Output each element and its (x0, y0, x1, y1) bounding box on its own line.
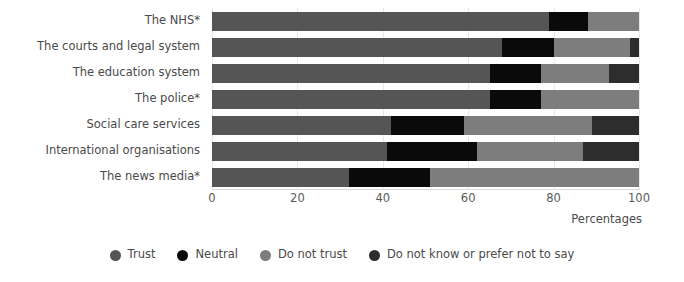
bar-segment (588, 12, 639, 31)
legend-item[interactable]: Do not trust (260, 249, 347, 261)
bar-segment (554, 38, 631, 57)
bar-segment (502, 38, 553, 57)
category-label: The courts and legal system (0, 41, 200, 53)
bar-segment (212, 168, 349, 187)
bar-segment (541, 90, 639, 109)
category-axis-labels: The NHS*The courts and legal systemThe e… (0, 8, 206, 190)
category-label: International organisations (0, 145, 200, 157)
category-label: Social care services (0, 119, 200, 131)
legend-swatch-circle-icon (110, 250, 121, 261)
bar-segment (549, 12, 587, 31)
plot-area (212, 8, 639, 190)
category-label: The education system (0, 67, 200, 79)
legend-item[interactable]: Trust (110, 249, 156, 261)
x-tick-label: 80 (546, 193, 561, 205)
bar-segment (490, 90, 541, 109)
x-tick-label: 60 (461, 193, 476, 205)
bar-segment (212, 142, 387, 161)
stacked-bar-chart: The NHS*The courts and legal systemThe e… (0, 0, 684, 282)
bar-segment (430, 168, 639, 187)
x-tick-label: 40 (375, 193, 390, 205)
legend-label: Do not trust (278, 249, 347, 261)
bar-segment (212, 12, 549, 31)
category-label: The NHS* (0, 15, 200, 27)
bar-row (212, 90, 639, 109)
bar-row (212, 142, 639, 161)
gridline-x-100 (639, 8, 640, 190)
category-label: The police* (0, 93, 200, 105)
bar-segment (391, 116, 464, 135)
bar-segment (477, 142, 584, 161)
legend-item[interactable]: Do not know or prefer not to say (369, 249, 574, 261)
bar-row (212, 38, 639, 57)
legend-label: Neutral (195, 249, 237, 261)
bar-row (212, 168, 639, 187)
x-axis-title: Percentages (470, 212, 642, 226)
bar-row (212, 12, 639, 31)
bar-row (212, 64, 639, 83)
legend-item[interactable]: Neutral (177, 249, 237, 261)
bar-segment (212, 38, 502, 57)
bar-segment (592, 116, 639, 135)
bar-segment (541, 64, 609, 83)
legend-label: Trust (128, 249, 156, 261)
bar-segment (349, 168, 430, 187)
bar-segment (212, 64, 490, 83)
x-axis-ticks: 020406080100 (212, 193, 639, 209)
legend-swatch-circle-icon (369, 250, 380, 261)
x-tick-label: 100 (628, 193, 650, 205)
chart-legend: TrustNeutralDo not trustDo not know or p… (0, 243, 684, 267)
legend-swatch-circle-icon (177, 250, 188, 261)
bar-segment (630, 38, 639, 57)
bar-segment (387, 142, 477, 161)
bar-segment (490, 64, 541, 83)
bar-segment (212, 90, 490, 109)
bar-segment (212, 116, 391, 135)
bar-segment (609, 64, 639, 83)
x-tick-label: 20 (290, 193, 305, 205)
legend-label: Do not know or prefer not to say (387, 249, 574, 261)
bar-segment (464, 116, 592, 135)
x-axis-line (212, 189, 639, 190)
legend-swatch-circle-icon (260, 250, 271, 261)
bar-row (212, 116, 639, 135)
bar-segment (583, 142, 639, 161)
x-tick-label: 0 (208, 193, 215, 205)
category-label: The news media* (0, 171, 200, 183)
